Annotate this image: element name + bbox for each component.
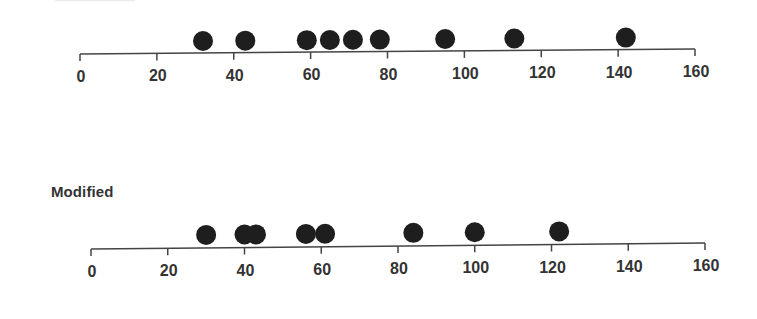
x-axis-tick-label: 80: [380, 66, 398, 83]
x-axis-tick-label: 140: [606, 64, 633, 81]
data-point-dot: [616, 28, 636, 48]
x-axis-tick-label: 40: [237, 262, 255, 279]
dot-plot-modified: 020406080100120140160: [88, 221, 720, 280]
x-axis-tick-label: 60: [303, 66, 321, 83]
x-axis-tick-label: 20: [160, 262, 178, 279]
dot-plot-canvas: 020406080100120140160 020406080100120140…: [0, 0, 757, 319]
x-axis-tick-label: 160: [693, 257, 720, 274]
data-point-dot: [315, 224, 335, 244]
data-point-dot: [435, 29, 455, 49]
x-axis-tick-label: 60: [313, 261, 331, 278]
data-point-dot: [246, 224, 266, 244]
x-axis-tick-label: 120: [529, 64, 556, 81]
data-point-dot: [297, 30, 317, 50]
x-axis-tick-label: 80: [390, 260, 408, 277]
x-axis-tick-label: 120: [539, 259, 566, 276]
x-axis-tick-label: 100: [452, 65, 479, 82]
data-point-dot: [403, 223, 423, 243]
dot-plot-original: 020406080100120140160: [77, 28, 710, 85]
x-axis-tick-label: 0: [77, 68, 86, 85]
x-axis-tick-label: 100: [462, 259, 489, 276]
data-point-dot: [235, 31, 255, 51]
data-point-dot: [549, 221, 569, 241]
data-point-dot: [320, 30, 340, 50]
x-axis-tick-label: 160: [683, 63, 710, 80]
x-axis-tick-label: 40: [226, 67, 244, 84]
data-point-dot: [343, 30, 363, 50]
data-point-dot: [196, 225, 216, 245]
x-axis-tick-label: 140: [616, 258, 643, 275]
x-axis-tick-label: 0: [88, 263, 97, 280]
data-point-dot: [296, 224, 316, 244]
data-point-dot: [370, 30, 390, 50]
data-point-dot: [465, 222, 485, 242]
data-point-dot: [504, 28, 524, 48]
data-point-dot: [193, 31, 213, 51]
x-axis-tick-label: 20: [149, 67, 167, 84]
